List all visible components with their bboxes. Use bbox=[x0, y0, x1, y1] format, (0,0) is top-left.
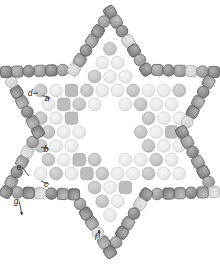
shell-subunit-square bbox=[0, 66, 12, 78]
core-subunit-circle-light bbox=[142, 84, 155, 97]
core-subunit-circle-light bbox=[50, 112, 63, 125]
shell-subunit-circle bbox=[152, 188, 164, 200]
core-subunit-circle-light bbox=[73, 126, 86, 139]
core-subunit-circle-light bbox=[134, 153, 147, 166]
core-subunit-circle-light bbox=[65, 167, 78, 180]
core-subunit-circle-light bbox=[50, 84, 63, 97]
core-subunit-circle-light bbox=[150, 126, 163, 139]
shell-subunit-square bbox=[152, 64, 164, 76]
core-subunit-circle-mid bbox=[127, 84, 140, 97]
core-subunit-circle-light bbox=[50, 139, 63, 152]
core-subunit-circle-light bbox=[158, 112, 171, 125]
shell-subunit-square bbox=[174, 65, 186, 77]
shell-subunit-circle bbox=[185, 187, 197, 199]
feature-label-text-d: d bbox=[28, 88, 33, 98]
shell-subunit-square bbox=[57, 188, 69, 200]
shell-subunit-square bbox=[185, 65, 197, 77]
shell-subunit-square bbox=[163, 188, 175, 200]
core-subunit-circle-mid bbox=[142, 167, 155, 180]
shell-subunit-circle bbox=[57, 64, 69, 76]
core-subunit-circle-light bbox=[57, 126, 70, 139]
core-subunit-circle-mid bbox=[104, 42, 117, 55]
core-subunit-circle-mid bbox=[50, 167, 63, 180]
core-subunit-circle-mid bbox=[42, 153, 55, 166]
shell-subunit-circle bbox=[163, 65, 175, 77]
core-subunit-square bbox=[81, 167, 93, 179]
shell-subunit-square bbox=[34, 65, 46, 77]
core-subunit-circle-light bbox=[150, 98, 163, 111]
core-subunit-circle-mid bbox=[134, 98, 147, 111]
shell-subunit-square bbox=[46, 65, 58, 77]
core-subunit-circle-light bbox=[158, 84, 171, 97]
feature-label-g: g bbox=[14, 196, 22, 215]
core-subunit-circle-mid bbox=[134, 126, 147, 139]
core-subunit-circle-light bbox=[158, 167, 171, 180]
core-subunit-circle-light bbox=[119, 98, 132, 111]
core-subunit-circle-light bbox=[88, 98, 101, 111]
feature-label-text-b: b bbox=[44, 144, 49, 154]
core-subunit-circle-light bbox=[158, 139, 171, 152]
core-subunit-circle-light bbox=[96, 84, 109, 97]
core-subunit-circle-mid bbox=[96, 167, 109, 180]
core-subunit-circle-light bbox=[111, 195, 124, 208]
core-subunit-circle-mid bbox=[173, 84, 186, 97]
figure-root: abcdefg bbox=[0, 0, 220, 264]
shell-subunit-square bbox=[208, 186, 220, 198]
core-subunit-circle-light bbox=[165, 153, 178, 166]
core-subunit-circle-light bbox=[96, 56, 109, 69]
core-subunit-circle-light bbox=[104, 209, 117, 222]
core-subunit-square bbox=[65, 84, 77, 96]
core-subunit-circle-mid bbox=[88, 153, 101, 166]
core-subunit-circle-light bbox=[111, 56, 124, 69]
core-subunit-circle-light bbox=[173, 167, 186, 180]
core-subunit-square bbox=[58, 98, 70, 110]
core-subunit-circle-light bbox=[165, 98, 178, 111]
core-subunit-circle-light bbox=[119, 70, 132, 83]
core-subunit-circle-mid bbox=[96, 195, 109, 208]
shell-subunit-square bbox=[34, 187, 46, 199]
leader-line-g bbox=[19, 201, 22, 215]
leader-line-e bbox=[22, 167, 29, 176]
shell-subunit-square bbox=[23, 187, 35, 199]
core-subunit-circle-light bbox=[111, 84, 124, 97]
core-subunit-square bbox=[73, 154, 85, 166]
core-subunit-square bbox=[65, 112, 77, 124]
shell-subunit-square bbox=[68, 189, 80, 201]
core-subunit-circle-mid bbox=[73, 98, 86, 111]
core-subunit-circle-light bbox=[127, 167, 140, 180]
feature-label-text-e: e bbox=[17, 162, 22, 172]
core-subunit-circle-mid bbox=[81, 84, 94, 97]
shell-subunit-circle bbox=[23, 65, 35, 77]
core-subunit-circle-light bbox=[57, 153, 70, 166]
core-subunit-circle-mid bbox=[142, 139, 155, 152]
core-subunit-circle-mid bbox=[142, 112, 155, 125]
core-subunit-circle-light bbox=[104, 181, 117, 194]
shell-subunit-square bbox=[12, 66, 24, 78]
core-subunit-circle-light bbox=[111, 167, 124, 180]
shell-subunit-circle bbox=[98, 16, 110, 28]
core-subunit-circle-mid bbox=[88, 70, 101, 83]
shell-subunit-circle bbox=[46, 188, 58, 200]
star-assembly-diagram: abcdefg bbox=[0, 0, 220, 264]
core-subunit-circle-light bbox=[119, 153, 132, 166]
core-subunit-square bbox=[119, 181, 131, 193]
core-subunit-circle-light bbox=[65, 139, 78, 152]
shell-subunit-square bbox=[174, 187, 186, 199]
shell-subunit-square bbox=[197, 187, 209, 199]
feature-label-text-g: g bbox=[14, 196, 19, 206]
feature-label-text-a: a bbox=[45, 93, 50, 103]
core-subunit-circle-light bbox=[104, 70, 117, 83]
core-subunit-circle-mid bbox=[88, 181, 101, 194]
feature-label-a: a bbox=[43, 93, 51, 103]
core-subunit-circle-mid bbox=[150, 153, 163, 166]
